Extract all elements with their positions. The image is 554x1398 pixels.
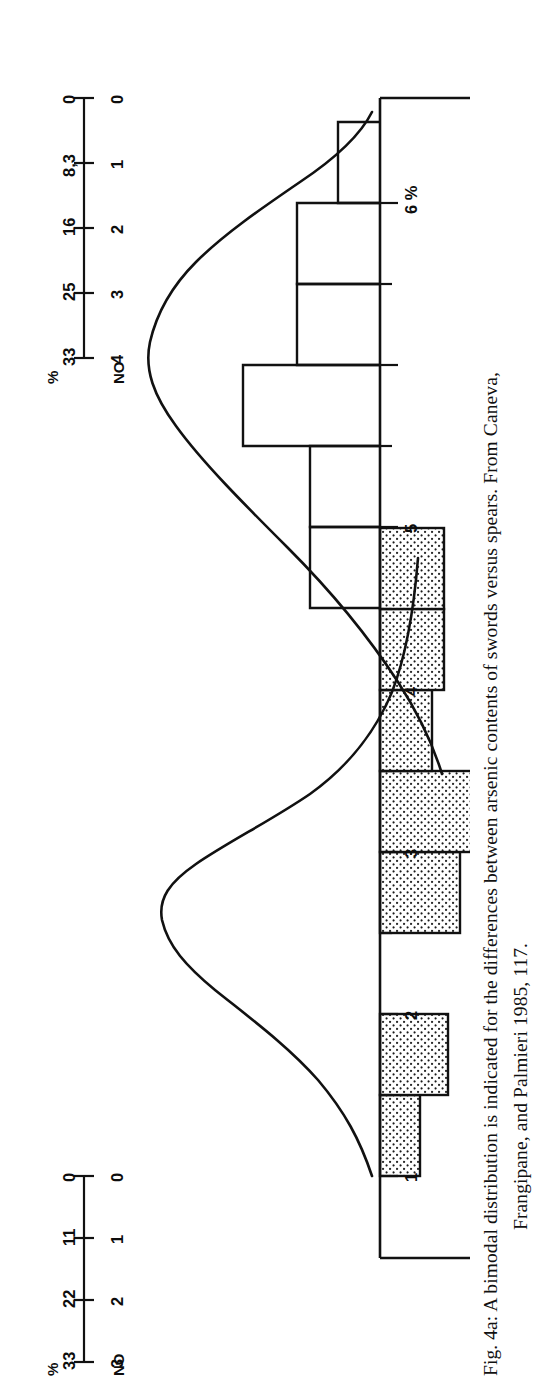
x-axis-unit-label: 6 % xyxy=(402,186,421,214)
right-percent-unit: % xyxy=(44,371,61,384)
rotated-caption-stage: Fig. 4a: A bimodal distribution is indic… xyxy=(470,0,554,1398)
right-percent-tick-33: 33 xyxy=(60,348,79,366)
right-count-tick-3: 3 xyxy=(108,290,127,299)
scale-rulers-svg xyxy=(0,0,470,1398)
left-percent-tick-22: 22 xyxy=(60,1290,79,1308)
right-percent-tick-0: 0 xyxy=(60,95,79,104)
right-count-tick-1: 1 xyxy=(108,160,127,169)
right-count-tick-2: 2 xyxy=(108,225,127,234)
right-percent-tick-83: 8,3 xyxy=(60,154,79,177)
left-percent-unit: % xyxy=(44,1363,61,1376)
x-tick-5: 5 xyxy=(402,524,421,533)
left-count-tick-0: 0 xyxy=(108,1173,127,1182)
left-percent-tick-11: 11 xyxy=(60,1229,79,1246)
rotated-figure-stage: % 33 22 11 0 NO 3 2 1 0 % 33 25 16 8,3 0… xyxy=(0,0,470,1398)
left-count-tick-2: 2 xyxy=(108,1297,127,1306)
figure-caption-line-2: Frangipane, and Palmieri 1985, 117. xyxy=(506,943,535,1230)
figure-page: % 33 22 11 0 NO 3 2 1 0 % 33 25 16 8,3 0… xyxy=(0,0,554,1398)
right-count-tick-0: 0 xyxy=(108,95,127,104)
left-percent-tick-0: 0 xyxy=(60,1173,79,1182)
right-percent-tick-16: 16 xyxy=(60,218,79,236)
right-count-tick-4: 4 xyxy=(108,355,127,364)
x-tick-1: 1 xyxy=(402,1173,421,1182)
x-tick-2: 2 xyxy=(402,1011,421,1020)
x-tick-3: 3 xyxy=(402,849,421,858)
x-axis-ticks xyxy=(380,203,398,1176)
left-percent-tick-33: 33 xyxy=(60,1352,79,1370)
left-count-tick-1: 1 xyxy=(108,1235,127,1244)
figure-caption-line-1: Fig. 4a: A bimodal distribution is indic… xyxy=(476,372,505,1376)
x-tick-4: 4 xyxy=(402,687,421,696)
chart-canvas: % 33 22 11 0 NO 3 2 1 0 % 33 25 16 8,3 0… xyxy=(0,0,470,1398)
left-scale-ruler xyxy=(74,1176,94,1362)
right-percent-tick-25: 25 xyxy=(60,283,79,301)
left-count-tick-3: 3 xyxy=(108,1359,127,1368)
right-count-unit: NO xyxy=(110,362,127,385)
